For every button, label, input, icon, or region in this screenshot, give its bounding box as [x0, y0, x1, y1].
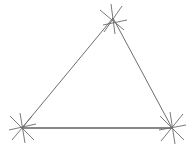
geometry-figure-canvas: [0, 0, 196, 152]
triangle-construction-diagram: [0, 0, 196, 152]
figure-background: [0, 0, 196, 152]
